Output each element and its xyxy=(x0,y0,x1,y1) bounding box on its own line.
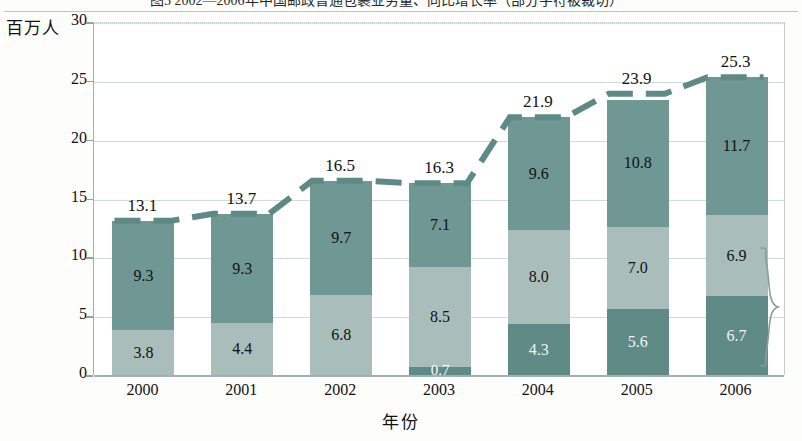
bar-2003[interactable]: 7.18.50.7 xyxy=(409,183,471,375)
bar-segment-2002-light: 6.8 xyxy=(310,295,372,375)
y-tick-15: 15 xyxy=(47,188,87,206)
total-label-2005: 23.9 xyxy=(592,69,682,89)
total-label-2006: 25.3 xyxy=(691,52,781,72)
total-label-2002: 16.5 xyxy=(295,156,385,176)
segment-value: 4.3 xyxy=(529,341,549,359)
y-tick-0: 0 xyxy=(47,364,87,382)
segment-value: 10.8 xyxy=(624,154,652,172)
segment-value: 9.6 xyxy=(529,165,549,183)
x-tick-2001: 2001 xyxy=(196,381,286,399)
x-tick-2004: 2004 xyxy=(493,381,583,399)
bar-segment-2005-dark: 10.8 xyxy=(607,100,669,227)
bar-segment-2003-light: 8.5 xyxy=(409,267,471,367)
x-tick-2002: 2002 xyxy=(295,381,385,399)
y-tickmark-15 xyxy=(86,199,93,201)
segment-value: 6.8 xyxy=(331,326,351,344)
bar-segment-2004-dark: 9.6 xyxy=(508,117,570,230)
segment-value: 9.3 xyxy=(133,267,153,285)
segment-value: 4.4 xyxy=(232,340,252,358)
segment-value: 6.9 xyxy=(727,247,747,265)
y-tickmark-20 xyxy=(86,140,93,142)
bar-segment-2003-dark: 7.1 xyxy=(409,183,471,267)
x-axis-title: 年份 xyxy=(0,408,802,433)
figure-title-clipped: 图5 2002—2006年中国邮政普通包裹业务量、同比增长率（部分字符被裁切） xyxy=(0,0,802,10)
x-tick-2003: 2003 xyxy=(394,381,484,399)
y-tick-5: 5 xyxy=(47,305,87,323)
right-brace-annotation xyxy=(758,246,784,368)
x-tick-2000: 2000 xyxy=(97,381,187,399)
bar-segment-2000-light: 3.8 xyxy=(112,330,174,375)
y-tick-30: 30 xyxy=(47,11,87,29)
chart-figure: 图5 2002—2006年中国邮政普通包裹业务量、同比增长率（部分字符被裁切） … xyxy=(0,0,802,441)
segment-value: 6.7 xyxy=(727,327,747,345)
segment-value: 9.7 xyxy=(331,229,351,247)
bar-segment-2005-base: 5.6 xyxy=(607,309,669,375)
segment-value: 11.7 xyxy=(723,137,750,155)
y-tick-20: 20 xyxy=(47,129,87,147)
y-tickmark-5 xyxy=(86,316,93,318)
y-tickmark-25 xyxy=(86,81,93,83)
y-tick-25: 25 xyxy=(47,70,87,88)
figure-title-text: 图5 2002—2006年中国邮政普通包裹业务量、同比增长率（部分字符被裁切） xyxy=(150,0,623,9)
x-tick-2005: 2005 xyxy=(592,381,682,399)
segment-value: 7.0 xyxy=(628,259,648,277)
segment-value: 8.0 xyxy=(529,268,549,286)
segment-value: 3.8 xyxy=(133,344,153,362)
gridline-20 xyxy=(94,141,784,142)
total-label-2004: 21.9 xyxy=(493,92,583,112)
y-tickmark-30 xyxy=(86,22,93,24)
gridline-30 xyxy=(94,23,784,24)
bar-segment-2003-base: 0.7 xyxy=(409,367,471,375)
segment-value: 7.1 xyxy=(430,216,450,234)
segment-value: 8.5 xyxy=(430,308,450,326)
bar-segment-2000-dark: 9.3 xyxy=(112,221,174,330)
total-label-2000: 13.1 xyxy=(97,196,187,216)
y-tickmark-0 xyxy=(86,375,93,377)
bar-2005[interactable]: 10.87.05.6 xyxy=(607,100,669,375)
x-tick-2006: 2006 xyxy=(691,381,781,399)
y-tickmark-10 xyxy=(86,257,93,259)
total-label-2001: 13.7 xyxy=(196,189,286,209)
bar-2000[interactable]: 9.33.8 xyxy=(112,221,174,375)
bar-segment-2002-dark: 9.7 xyxy=(310,181,372,295)
bar-segment-2004-light: 8.0 xyxy=(508,230,570,324)
bar-segment-2005-light: 7.0 xyxy=(607,227,669,309)
segment-value: 0.7 xyxy=(431,362,450,379)
bar-2002[interactable]: 9.76.8 xyxy=(310,181,372,375)
segment-value: 9.3 xyxy=(232,260,252,278)
bar-2001[interactable]: 9.34.4 xyxy=(211,214,273,375)
title-divider xyxy=(4,11,798,12)
y-tick-10: 10 xyxy=(47,246,87,264)
bar-segment-2001-dark: 9.3 xyxy=(211,214,273,323)
bar-segment-2006-dark: 11.7 xyxy=(706,77,768,215)
bar-segment-2004-base: 4.3 xyxy=(508,324,570,375)
bar-segment-2001-light: 4.4 xyxy=(211,323,273,375)
total-label-2003: 16.3 xyxy=(394,158,484,178)
segment-value: 5.6 xyxy=(628,333,648,351)
bar-2004[interactable]: 9.68.04.3 xyxy=(508,117,570,375)
